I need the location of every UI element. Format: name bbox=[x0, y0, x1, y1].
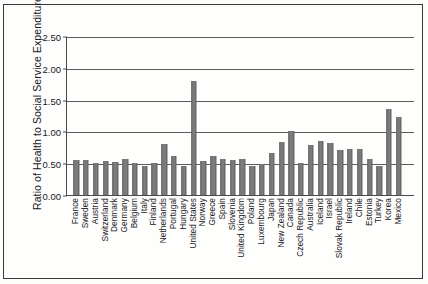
bar bbox=[240, 159, 245, 195]
x-tick-label: Hungary bbox=[178, 198, 188, 230]
bar bbox=[83, 160, 88, 195]
bar-slot bbox=[120, 37, 130, 195]
bar-slot bbox=[169, 37, 179, 195]
bar-slot bbox=[355, 37, 365, 195]
bar bbox=[230, 160, 235, 195]
y-tick-label-2.00: 2.00 bbox=[43, 63, 62, 74]
x-tick-label: Canada bbox=[285, 198, 295, 227]
bar-slot bbox=[326, 37, 336, 195]
x-tick-label: Germany bbox=[119, 198, 129, 232]
bar bbox=[289, 131, 294, 195]
y-tick-label-0.00: 0.00 bbox=[43, 191, 62, 202]
bar-slot bbox=[394, 37, 404, 195]
bar bbox=[220, 159, 225, 195]
bar bbox=[259, 164, 264, 195]
bar-slot bbox=[238, 37, 248, 195]
x-tick-label: Poland bbox=[246, 198, 256, 224]
bar bbox=[357, 149, 362, 195]
bar-slot bbox=[159, 37, 169, 195]
bar-slot bbox=[306, 37, 316, 195]
x-tick-label: Spain bbox=[217, 198, 227, 219]
bar bbox=[171, 156, 176, 195]
bar-slot bbox=[140, 37, 150, 195]
y-tick-mark-0.00 bbox=[63, 196, 67, 197]
x-tick-label: Greece bbox=[207, 198, 217, 226]
y-tick-label-1.50: 1.50 bbox=[43, 95, 62, 106]
bar-slot bbox=[277, 37, 287, 195]
bar-slot bbox=[267, 37, 277, 195]
bar-slot bbox=[179, 37, 189, 195]
bar-slot bbox=[208, 37, 218, 195]
x-tick-label: Australia bbox=[305, 198, 315, 231]
bar bbox=[298, 163, 303, 195]
x-tick-label: Luxembourg bbox=[256, 198, 266, 245]
bar bbox=[338, 150, 343, 195]
bar bbox=[103, 161, 108, 195]
bar bbox=[386, 109, 391, 195]
bar bbox=[93, 163, 98, 195]
bar bbox=[142, 166, 147, 195]
x-axis-tick-labels: FranceSwedenAustriaSwitzerlandDenmarkGer… bbox=[66, 198, 414, 276]
x-tick-label: Japan bbox=[266, 198, 276, 221]
bar-slot bbox=[384, 37, 394, 195]
bar-slot bbox=[365, 37, 375, 195]
bar bbox=[191, 81, 196, 195]
x-tick-label: Portugal bbox=[168, 198, 178, 229]
x-tick-label: Belgium bbox=[129, 198, 139, 228]
bar bbox=[181, 166, 186, 195]
x-tick-label: United Kingdom bbox=[236, 198, 246, 258]
x-tick-label: Israel bbox=[324, 198, 334, 219]
bar-slot bbox=[71, 37, 81, 195]
x-tick-label: Czech Republic bbox=[295, 198, 305, 257]
x-tick-label: Finland bbox=[148, 198, 158, 226]
bar-slot bbox=[101, 37, 111, 195]
bar-slot bbox=[198, 37, 208, 195]
bar-slot bbox=[228, 37, 238, 195]
bar bbox=[328, 143, 333, 195]
x-tick-label: Mexico bbox=[393, 198, 403, 225]
bar-slot bbox=[91, 37, 101, 195]
bar-slot bbox=[189, 37, 199, 195]
bar-slot bbox=[130, 37, 140, 195]
bar-slot bbox=[335, 37, 345, 195]
x-tick-label: Chile bbox=[354, 198, 364, 217]
bar bbox=[74, 160, 79, 195]
bar bbox=[201, 161, 206, 195]
x-tick-label: Denmark bbox=[109, 198, 119, 232]
bar-slot bbox=[81, 37, 91, 195]
bar bbox=[347, 149, 352, 195]
bar bbox=[152, 163, 157, 195]
bar-slot bbox=[247, 37, 257, 195]
plot-area: 0.000.501.001.502.002.50 bbox=[66, 37, 414, 196]
x-tick-label: Netherlands bbox=[158, 198, 168, 243]
bar-slot bbox=[374, 37, 384, 195]
bar bbox=[367, 159, 372, 195]
bar-slot bbox=[316, 37, 326, 195]
bar-slot bbox=[111, 37, 121, 195]
bar-slot bbox=[257, 37, 267, 195]
x-tick-label: Norway bbox=[197, 198, 207, 226]
bar bbox=[308, 145, 313, 195]
bar bbox=[162, 144, 167, 195]
bar-slot bbox=[218, 37, 228, 195]
bar bbox=[396, 117, 401, 195]
bar bbox=[269, 153, 274, 195]
bar bbox=[250, 166, 255, 195]
bar bbox=[210, 156, 215, 195]
bar-slot bbox=[345, 37, 355, 195]
bars-group bbox=[67, 37, 414, 195]
x-tick-label: Turkey bbox=[373, 198, 383, 223]
x-tick-label: Korea bbox=[383, 198, 393, 220]
bar bbox=[132, 163, 137, 195]
x-tick-label: Austria bbox=[90, 198, 100, 224]
y-tick-label-2.50: 2.50 bbox=[43, 32, 62, 43]
y-tick-label-0.50: 0.50 bbox=[43, 159, 62, 170]
chart-figure: Ratio of Health to Social Service Expend… bbox=[0, 0, 428, 284]
bar-slot bbox=[286, 37, 296, 195]
bar-slot bbox=[150, 37, 160, 195]
x-tick-label: Sweden bbox=[80, 198, 90, 228]
y-tick-label-1.00: 1.00 bbox=[43, 127, 62, 138]
bar bbox=[113, 162, 118, 195]
bar bbox=[318, 141, 323, 195]
y-axis-title: Ratio of Health to Social Service Expend… bbox=[31, 10, 43, 210]
